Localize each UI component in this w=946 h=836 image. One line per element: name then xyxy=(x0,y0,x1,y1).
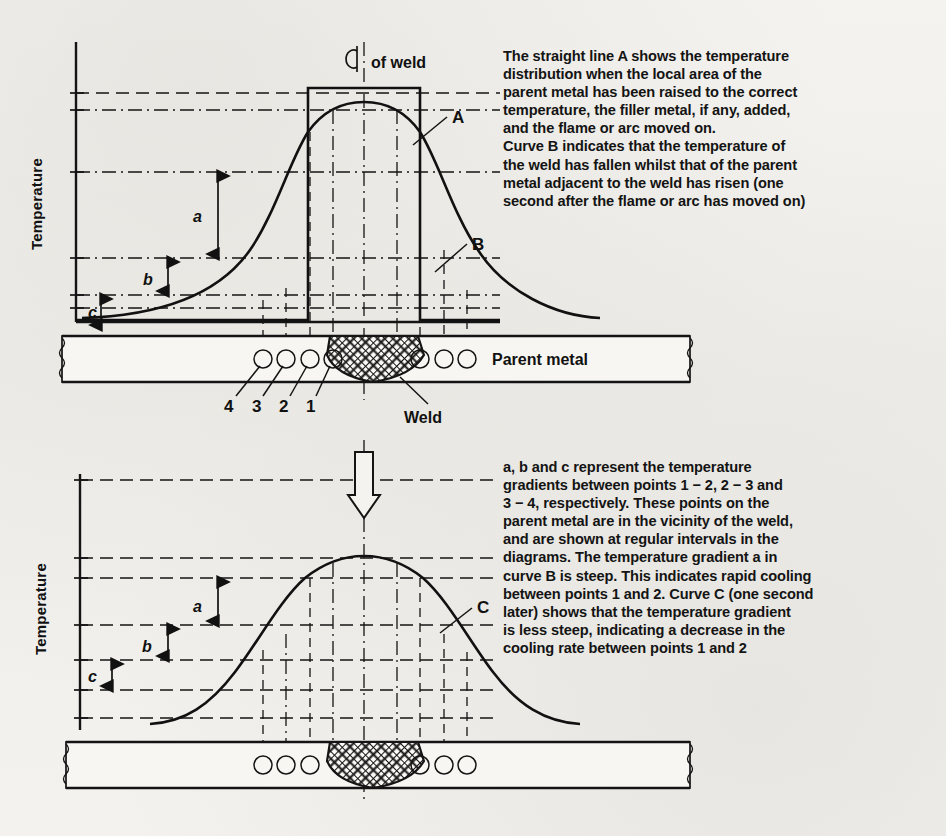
curve-c-label: C xyxy=(477,598,489,617)
centreline-label: of weld xyxy=(371,54,426,71)
parent-metal-label: Parent metal xyxy=(492,351,588,368)
point-label-2: 2 xyxy=(279,397,288,416)
curve-c-callout: C xyxy=(440,598,489,633)
point-label-3: 3 xyxy=(252,397,261,416)
lower-gradient-b: b xyxy=(142,629,168,656)
lower-gradient-b-label: b xyxy=(142,638,152,655)
curve-b-label: B xyxy=(472,235,484,254)
lower-axis-label: Temperature xyxy=(32,563,49,655)
centreline-symbol-icon xyxy=(346,46,357,72)
point-label-4: 4 xyxy=(224,397,234,416)
description-lower: a, b and c represent the temperature gra… xyxy=(503,458,943,657)
weld-label: Weld xyxy=(404,409,442,426)
description-upper: The straight line A shows the temperatur… xyxy=(503,47,943,210)
upper-y-axis xyxy=(70,42,84,322)
upper-gradient-c-label: c xyxy=(88,304,97,321)
upper-gradient-b: b xyxy=(143,262,168,291)
upper-gradient-a-label: a xyxy=(193,208,202,225)
lower-gradient-c-label: c xyxy=(88,668,97,685)
upper-gradient-b-label: b xyxy=(143,271,153,288)
lower-y-axis xyxy=(74,474,88,730)
curve-b-callout: B xyxy=(435,235,484,272)
point-label-1: 1 xyxy=(306,397,315,416)
curve-a-label: A xyxy=(452,108,464,127)
lower-gradient-a-label: a xyxy=(193,598,202,615)
weld-callout: Weld xyxy=(400,377,442,426)
transfer-down-arrow-icon xyxy=(348,452,380,518)
curve-a-path xyxy=(76,88,500,320)
upper-axis-label: Temperature xyxy=(28,158,45,250)
upper-gradient-a: a xyxy=(193,176,218,254)
lower-gradient-a: a xyxy=(193,582,218,621)
lower-gradient-c: c xyxy=(88,664,112,686)
lower-reference-lines xyxy=(80,480,500,718)
figure-page: Temperature xyxy=(0,0,946,836)
